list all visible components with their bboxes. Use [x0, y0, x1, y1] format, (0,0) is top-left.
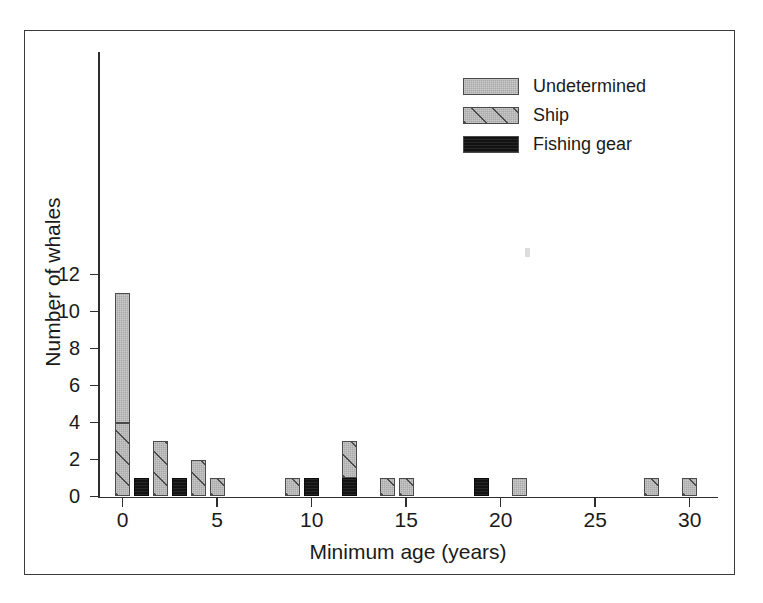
bar-segment — [153, 441, 168, 496]
x-axis-tick-label: 30 — [665, 509, 715, 530]
x-axis-tick-label: 20 — [476, 509, 526, 530]
x-axis-tick — [689, 498, 691, 507]
bar-segment — [285, 478, 300, 496]
y-axis-tick — [90, 348, 98, 350]
bar-segment — [380, 478, 395, 496]
bar-segment — [399, 478, 414, 496]
y-axis-tick — [90, 385, 98, 387]
x-axis-tick — [311, 498, 313, 507]
bar-segment — [210, 478, 225, 496]
x-axis-tick-label: 0 — [98, 509, 148, 530]
y-axis-line — [98, 52, 100, 498]
x-axis-tick — [594, 498, 596, 507]
bar-segment — [682, 478, 697, 496]
y-axis-tick — [90, 274, 98, 276]
legend-item-label: Fishing gear — [533, 135, 632, 153]
bar-segment — [304, 478, 319, 496]
y-axis-tick — [90, 496, 98, 498]
legend-item: Undetermined — [463, 74, 693, 98]
bar-segment — [474, 478, 489, 496]
x-axis-title: Minimum age (years) — [98, 540, 718, 564]
legend-item-label: Ship — [533, 106, 569, 124]
bar-segment — [134, 478, 149, 496]
bar-segment — [342, 441, 357, 478]
chart-legend: UndeterminedShipFishing gear — [463, 74, 693, 161]
legend-swatch-icon — [463, 78, 519, 95]
bar-segment — [191, 460, 206, 497]
y-axis-tick-label: 0 — [42, 486, 80, 506]
x-axis-tick-label: 25 — [570, 509, 620, 530]
legend-item: Ship — [463, 103, 693, 127]
legend-swatch-icon — [463, 136, 519, 153]
y-axis-title: Number of whales — [41, 167, 65, 397]
y-axis-tick — [90, 311, 98, 313]
x-axis-line — [98, 497, 718, 499]
y-axis-tick-label: 2 — [42, 449, 80, 469]
x-axis-tick-label: 15 — [381, 509, 431, 530]
legend-item-label: Undetermined — [533, 77, 646, 95]
legend-swatch-icon — [463, 107, 519, 124]
scan-artifact-speck — [525, 248, 530, 257]
bar-segment — [115, 423, 130, 497]
bar-segment — [115, 293, 130, 422]
bar-segment — [512, 478, 527, 496]
bar-segment — [342, 478, 357, 496]
x-axis-tick — [405, 498, 407, 507]
x-axis-tick — [122, 498, 124, 507]
y-axis-tick-label: 4 — [42, 412, 80, 432]
x-axis-tick — [500, 498, 502, 507]
x-axis-tick-label: 5 — [192, 509, 242, 530]
chart-plot-area: 024681012 051015202530 Minimum age (year… — [0, 0, 763, 603]
x-axis-tick — [216, 498, 218, 507]
y-axis-tick — [90, 422, 98, 424]
x-axis-tick-label: 10 — [287, 509, 337, 530]
bar-segment — [172, 478, 187, 496]
legend-item: Fishing gear — [463, 132, 693, 156]
y-axis-tick — [90, 459, 98, 461]
bar-segment — [644, 478, 659, 496]
